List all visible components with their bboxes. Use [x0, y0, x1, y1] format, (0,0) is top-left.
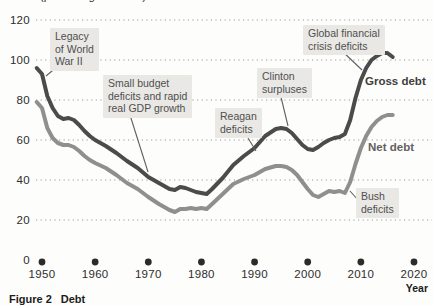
annotation-line: Reagan [220, 110, 257, 123]
axis-unit-label: (percentage of GDP) [40, 0, 146, 2]
y-tick-label-0: 0 [0, 253, 30, 267]
x-tick-label-1960: 1960 [75, 267, 115, 281]
x-tick-label-1990: 1990 [235, 267, 275, 281]
y-tick-label-60: 60 [0, 133, 30, 147]
axis-dot-1980 [198, 259, 205, 266]
annotation-reagan-deficits: Reagandeficits [215, 108, 262, 138]
annotation-line: real GDP growth [108, 102, 187, 115]
x-tick-label-2020: 2020 [394, 267, 434, 281]
annotation-legacy-of-world-war-ii: Legacyof WorldWar II [50, 28, 99, 71]
axis-dot-2010 [357, 259, 364, 266]
x-tick-label-1980: 1980 [181, 267, 221, 281]
y-tick-label-100: 100 [0, 53, 30, 67]
annotation-line: surpluses [262, 83, 307, 96]
x-tick-label-2010: 2010 [341, 267, 381, 281]
annotation-clinton-surpluses: Clintonsurpluses [257, 68, 312, 98]
annotation-small-budget-deficits: Small budgetdeficits and rapidreal GDP g… [103, 75, 192, 118]
annotation-line: crisis deficits [308, 40, 380, 53]
annotation-line: Global financial [308, 27, 380, 40]
x-axis-title: Year [388, 282, 428, 294]
figure-caption: Figure 2Debt [9, 293, 85, 305]
axis-dot-1960 [92, 259, 99, 266]
annotation-global-financial-crisis-deficits: Global financialcrisis deficits [303, 25, 385, 55]
annotation-line: Clinton [262, 70, 307, 83]
annotation-bush-deficits: Bushdeficits [356, 188, 399, 218]
annotation-line: of World [55, 43, 94, 56]
axis-dot-2020 [411, 259, 418, 266]
series-label-net-debt: Net debt [368, 141, 414, 153]
annotation-line: deficits [220, 123, 257, 136]
figure-caption-title: Debt [61, 293, 85, 305]
y-tick-label-40: 40 [0, 173, 30, 187]
x-tick-label-1970: 1970 [128, 267, 168, 281]
y-tick-label-120: 120 [0, 13, 30, 27]
x-tick-label-1950: 1950 [22, 267, 62, 281]
axis-dot-1950 [39, 259, 46, 266]
figure-2-debt-chart: 0204060801001201950196019701980199020002… [0, 0, 434, 306]
annotation-line: deficits [361, 203, 394, 216]
y-tick-label-80: 80 [0, 93, 30, 107]
annotation-line: Legacy [55, 30, 94, 43]
annotation-line: Small budget [108, 77, 187, 90]
y-tick-label-20: 20 [0, 213, 30, 227]
figure-caption-label: Figure 2 [9, 293, 52, 305]
annotation-line: Bush [361, 190, 394, 203]
axis-dot-1970 [145, 259, 152, 266]
axis-dot-2000 [304, 259, 311, 266]
axis-dot-1990 [251, 259, 258, 266]
annotation-line: deficits and rapid [108, 90, 187, 103]
x-tick-label-2000: 2000 [288, 267, 328, 281]
annotation-line: War II [55, 55, 94, 68]
series-label-gross-debt: Gross debt [365, 75, 426, 87]
